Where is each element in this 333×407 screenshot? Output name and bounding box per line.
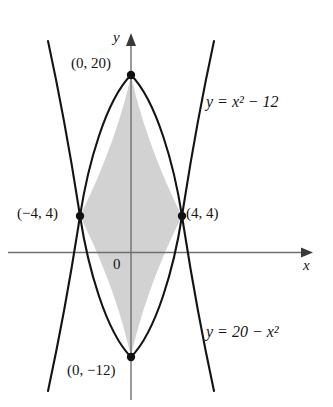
point-label-neg4-4: (−4, 4) [17,206,58,221]
point-marker-0-20 [127,71,135,79]
point-marker-0-neg12 [127,353,135,361]
point-label-0-20: (0, 20) [71,56,111,71]
x-axis-label: x [303,258,310,273]
graph-canvas [0,0,333,407]
origin-label: 0 [113,257,121,272]
point-marker-4-4 [178,212,186,220]
y-axis-label: y [113,30,120,45]
y-axis-arrow-icon [126,33,136,46]
equation-label-downward-parabola: y = 20 − x² [206,324,279,340]
point-label-0-neg12: (0, −12) [67,363,115,378]
point-marker-neg4-4 [76,212,84,220]
equation-label-upward-parabola: y = x² − 12 [206,94,279,110]
x-axis-arrow-icon [301,248,313,258]
point-label-4-4: (4, 4) [186,206,219,221]
parabola-region-figure: y x 0 (0, 20) (−4, 4) (4, 4) (0, −12) y … [0,0,333,407]
